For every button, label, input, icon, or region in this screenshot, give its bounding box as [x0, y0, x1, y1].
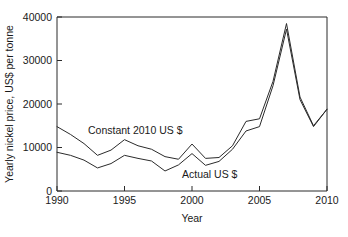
x-tick-label-1995: 1995	[113, 194, 137, 206]
nickel-price-chart: 0 10000 20000 30000 40000 1990 1995 2000…	[0, 0, 348, 237]
y-tick-label-10000: 10000	[23, 141, 52, 153]
series-annotation-constant-2010-usd: Constant 2010 US $	[88, 124, 183, 136]
x-tick-label-1990: 1990	[45, 194, 69, 206]
x-axis-ticks	[57, 186, 327, 191]
y-axis-ticks	[57, 17, 62, 191]
x-axis-tick-labels: 1990 1995 2000 2005 2010	[45, 194, 339, 206]
x-tick-label-2010: 2010	[315, 194, 339, 206]
x-tick-label-2005: 2005	[248, 194, 272, 206]
plot-frame	[57, 17, 327, 191]
x-tick-label-2000: 2000	[180, 194, 204, 206]
series-annotation-actual-usd: Actual US $	[182, 168, 238, 180]
y-tick-label-20000: 20000	[23, 98, 52, 110]
y-axis-title: Yearly nickel price, US$ per tonne	[3, 25, 15, 183]
y-axis-tick-labels: 0 10000 20000 30000 40000	[23, 11, 52, 197]
series-line-constant-2010-usd	[57, 24, 327, 160]
chart-canvas: 0 10000 20000 30000 40000 1990 1995 2000…	[0, 0, 348, 237]
x-axis-title: Year	[181, 212, 203, 224]
y-tick-label-30000: 30000	[23, 54, 52, 66]
y-tick-label-40000: 40000	[23, 11, 52, 23]
series-line-actual-usd	[57, 29, 327, 171]
